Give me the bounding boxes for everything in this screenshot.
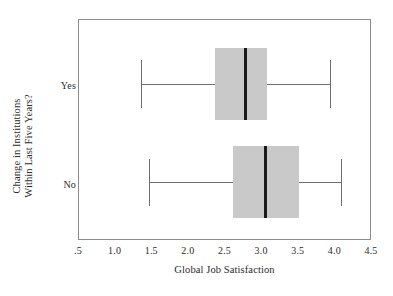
- x-tick-label: 1.0: [108, 245, 121, 256]
- x-axis-title: Global Job Satisfaction: [78, 264, 371, 275]
- x-tick-label: 4.5: [364, 245, 377, 256]
- y-axis-title-line-2: Within Last Five Years?: [23, 94, 35, 197]
- plot-area: [78, 19, 371, 240]
- x-tick-label: .5: [74, 245, 82, 256]
- y-axis-title-line-1: Change in Institutions: [11, 99, 23, 194]
- x-tick-label: 1.5: [145, 245, 158, 256]
- x-tick-label: 4.0: [328, 245, 341, 256]
- x-tick-label: 3.0: [255, 245, 268, 256]
- y-axis-title: Change in Institutions Within Last Five …: [0, 0, 46, 296]
- y-tick-label-yes: Yes: [48, 80, 76, 91]
- whisker-high-cap: [341, 159, 342, 207]
- boxplot-group-no: [79, 20, 370, 239]
- boxplot-series: [79, 20, 370, 239]
- whisker-high-line: [299, 182, 341, 183]
- y-axis-tick-labels: Yes No: [42, 0, 76, 296]
- x-axis-tick-labels: .51.01.52.02.53.03.54.04.5: [78, 245, 371, 259]
- boxplot-figure: Change in Institutions Within Last Five …: [0, 0, 393, 296]
- y-tick-label-no: No: [48, 179, 76, 190]
- median-line: [264, 146, 267, 218]
- x-tick-label: 2.5: [218, 245, 231, 256]
- whisker-low-cap: [149, 159, 150, 207]
- x-tick-label: 2.0: [181, 245, 194, 256]
- x-tick-label: 3.5: [291, 245, 304, 256]
- whisker-low-line: [149, 182, 233, 183]
